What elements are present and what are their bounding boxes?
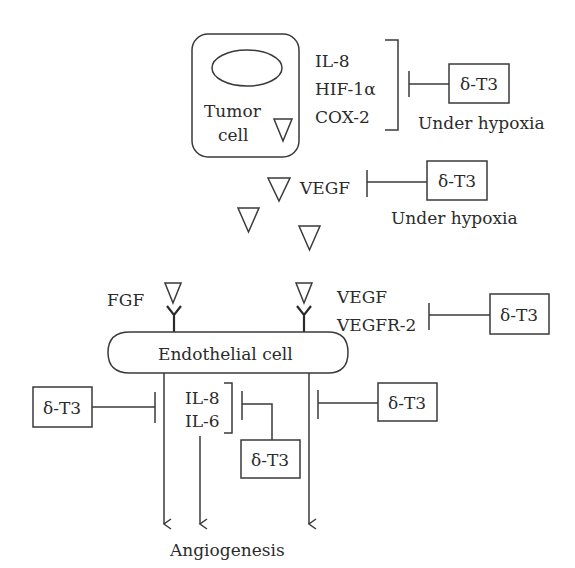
endothelial-factor-il6: IL-6 [185, 411, 220, 431]
fgf-receptor-icon [167, 306, 181, 332]
delta-t3-label: δ-T3 [460, 74, 498, 94]
vegf-triangle-icon [296, 283, 312, 303]
delta-t3-label: δ-T3 [251, 450, 289, 470]
inhibition-line [242, 404, 272, 440]
delta-t3-label: δ-T3 [388, 393, 426, 413]
angiogenesis-pathway-diagram: Tumor cell IL-8 HIF-1α COX-2 δ-T3 Under … [0, 0, 575, 568]
secreted-vegf-label: VEGF [299, 178, 350, 198]
vegf-triangle-icon [299, 226, 320, 250]
tumor-cell-label-line1: Tumor [204, 101, 262, 121]
vegf-triangle-icon [238, 208, 259, 232]
under-hypoxia-label: Under hypoxia [418, 113, 545, 133]
angiogenesis-label: Angiogenesis [169, 540, 285, 560]
delta-t3-label: δ-T3 [43, 398, 81, 418]
tumor-factor-il8: IL-8 [315, 51, 350, 71]
vegf-label: VEGF [336, 287, 387, 307]
inhibitor-fgf-pathway: δ-T3 [33, 387, 155, 427]
inhibitor-interleukins: δ-T3 [241, 391, 300, 478]
tumor-factor-cox2: COX-2 [315, 107, 370, 127]
vegfr2-label: VEGFR-2 [336, 315, 416, 335]
fgf-ligand-receptor: FGF [107, 283, 181, 332]
delta-t3-label: δ-T3 [438, 171, 476, 191]
under-hypoxia-label: Under hypoxia [391, 208, 518, 228]
endothelial-factors-bracket [224, 383, 232, 433]
tumor-factors: IL-8 HIF-1α COX-2 [315, 40, 398, 130]
tumor-cell: Tumor cell [192, 34, 299, 157]
tumor-factor-hif1a: HIF-1α [315, 79, 376, 99]
tumor-factors-bracket [385, 40, 398, 130]
inhibitor-vegfr2: δ-T3 [429, 294, 549, 334]
secreted-vegf: VEGF [238, 178, 350, 250]
inhibitor-vegf-pathway: δ-T3 [318, 383, 437, 421]
inhibitor-vegf: δ-T3 Under hypoxia [367, 161, 518, 228]
endothelial-factors: IL-8 IL-6 [185, 383, 232, 433]
endothelial-factor-il8: IL-8 [185, 388, 220, 408]
fgf-triangle-icon [165, 283, 181, 303]
fgf-label: FGF [107, 290, 144, 310]
endothelial-cell-label: Endothelial cell [158, 344, 293, 364]
delta-t3-label: δ-T3 [500, 305, 538, 325]
vegfr2-receptor-icon [297, 306, 311, 332]
vegf-triangle-icon [268, 178, 290, 201]
endothelial-cell: Endothelial cell [108, 332, 348, 373]
inhibitor-tumor-factors: δ-T3 Under hypoxia [409, 64, 545, 133]
tumor-cell-label-line2: cell [218, 125, 248, 145]
vegf-ligand-receptor: VEGF VEGFR-2 [296, 283, 416, 335]
